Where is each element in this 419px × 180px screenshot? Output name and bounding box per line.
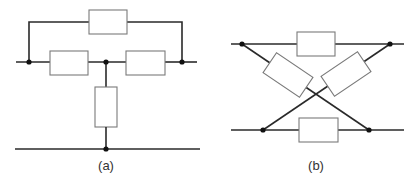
junction-dot bbox=[387, 41, 392, 46]
panel-a-bridged-t: (a) bbox=[15, 10, 200, 173]
junction-dot bbox=[260, 127, 265, 132]
bottom-arm-resistor bbox=[299, 118, 338, 142]
series-resistor-right bbox=[126, 51, 165, 75]
junction-dot bbox=[103, 59, 108, 64]
junction-dot bbox=[239, 41, 244, 46]
top-arm-resistor bbox=[297, 32, 335, 56]
bridge-resistor bbox=[89, 10, 127, 34]
panel-b-lattice: (b) bbox=[231, 32, 404, 173]
diagonal-resistor-1 bbox=[263, 53, 313, 98]
panel-label-b: (b) bbox=[308, 158, 324, 173]
circuit-diagram: (a) (b) bbox=[0, 0, 419, 180]
junction-dot bbox=[26, 59, 31, 64]
junction-dot bbox=[366, 127, 371, 132]
junction-dot bbox=[103, 146, 108, 151]
shunt-resistor bbox=[95, 87, 117, 127]
panel-label-a: (a) bbox=[98, 158, 114, 173]
series-resistor-left bbox=[50, 51, 88, 75]
diagonal-resistor-2 bbox=[321, 52, 371, 97]
junction-dot bbox=[179, 59, 184, 64]
